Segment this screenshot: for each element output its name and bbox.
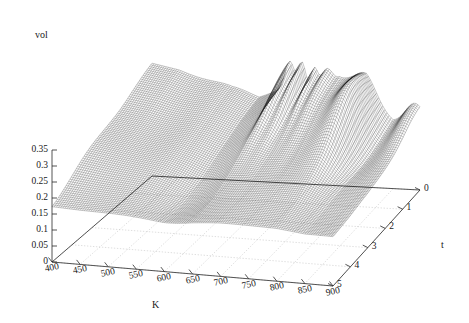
k-axis-label: K <box>152 299 159 310</box>
vol-tick-0.2: 0.2 <box>16 193 48 203</box>
vol-tick-0.15: 0.15 <box>16 209 48 219</box>
volatility-surface-mesh <box>52 61 420 237</box>
plot-canvas <box>0 0 469 323</box>
t-axis-label: t <box>441 239 444 250</box>
vol-axis-ticks <box>52 150 57 262</box>
vol-axis-label: vol <box>35 29 48 40</box>
vol-tick-0.3: 0.3 <box>16 161 48 171</box>
t-tick-0: 0 <box>424 184 429 194</box>
t-tick-5: 5 <box>337 280 342 290</box>
surface-plot-figure: vol K t 0.350.30.250.20.150.10.050 40045… <box>0 0 469 323</box>
t-tick-1: 1 <box>407 203 412 213</box>
t-tick-4: 4 <box>354 261 359 271</box>
vol-tick-0.25: 0.25 <box>16 177 48 187</box>
t-tick-3: 3 <box>372 242 377 252</box>
vol-tick-0.1: 0.1 <box>16 225 48 235</box>
vol-tick-0.35: 0.35 <box>16 145 48 155</box>
vol-tick-0.05: 0.05 <box>16 241 48 251</box>
t-tick-2: 2 <box>389 222 394 232</box>
